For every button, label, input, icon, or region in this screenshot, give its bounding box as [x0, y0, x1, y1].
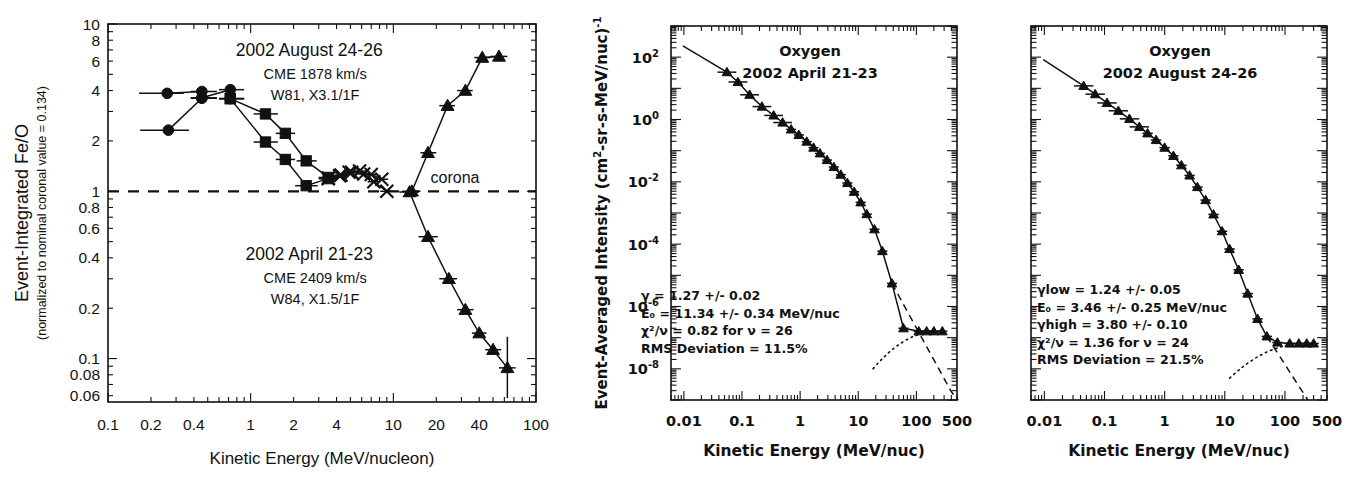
data-point-triangle — [422, 230, 435, 241]
y-tick-labels: 10864210.80.60.40.20.10.080.06 — [70, 16, 101, 405]
y-axis-subtitle: (normalized to nominal coronal value = 0… — [35, 86, 49, 340]
x-tick-label: 500 — [1312, 413, 1342, 429]
data-point-triangle — [442, 272, 455, 283]
panel-title-species: Oxygen — [1149, 43, 1211, 59]
x-tick-label: 1 — [246, 416, 255, 433]
panel-fe-o-ratio: 0.10.20.412410204010010864210.80.60.40.2… — [0, 0, 570, 484]
series-line — [230, 99, 328, 186]
panel-oxygen-april: 0.010.111010050010210010-210-410-610-8Ox… — [585, 0, 995, 484]
y-tick-label: 0.2 — [78, 300, 100, 317]
fit-parameter-line: E₀ = 11.34 +/- 0.34 MeV/nuc — [641, 306, 840, 321]
x-tick-label: 500 — [942, 413, 972, 429]
x-tick-label: 100 — [901, 413, 931, 429]
x-tick-label: 1 — [795, 413, 805, 429]
y-axis-title: Event-Integrated Fe/O — [12, 124, 32, 302]
fit-parameters: γlow = 1.24 +/- 0.05E₀ = 3.46 +/- 0.25 M… — [1037, 282, 1227, 367]
x-tick-labels: 0.010.1110100500 — [1026, 413, 1342, 429]
data-point-circle — [197, 93, 208, 104]
spectrum-line-head — [1043, 60, 1083, 86]
fit-parameter-line: χ²/ν = 0.82 for ν = 26 — [641, 323, 793, 338]
data-point-triangle — [493, 50, 506, 61]
oxygen-spectrum-april-chart: 0.010.111010050010210010-210-410-610-8Ox… — [585, 0, 995, 484]
y-tick-label: 100 — [632, 110, 659, 128]
x-tick-label: 40 — [471, 416, 489, 433]
x-tick-label: 0.01 — [666, 413, 702, 429]
x-tick-label: 1 — [1160, 413, 1170, 429]
annotation-line: W81, X3.1/1F — [271, 87, 360, 103]
panel-title-species: Oxygen — [779, 43, 841, 59]
panel-title: Oxygen2002 April 21-23 — [742, 43, 878, 81]
y-tick-label: 10-4 — [628, 235, 659, 253]
data-point-square — [280, 154, 290, 164]
x-tick-label: 0.4 — [183, 416, 205, 433]
y-axis-title: Event-Averaged Intensity (cm2-sr-s-MeV/n… — [592, 17, 611, 410]
annotation-line: W84, X1.5/1F — [271, 291, 360, 307]
x-axis-title: Kinetic Energy (MeV/nucleon) — [210, 449, 435, 468]
x-tick-label: 10 — [385, 416, 403, 433]
series-line — [230, 99, 328, 178]
y-tick-label: 0.06 — [70, 387, 100, 404]
annotation-title: 2002 August 24-26 — [236, 40, 383, 60]
y-tick-label: 10-8 — [628, 359, 659, 377]
panel-title: Oxygen2002 August 24-26 — [1103, 43, 1258, 81]
x-tick-label: 4 — [332, 416, 341, 433]
y-tick-label: 6 — [91, 53, 100, 70]
data-point-circle — [162, 88, 173, 99]
data-point-triangle — [473, 327, 486, 338]
y-tick-label: 0.8 — [78, 199, 100, 216]
oxygen-spectrum-august-chart: 0.010.1110100500Oxygen2002 August 24-26γ… — [995, 0, 1371, 484]
series-august-circles-low — [140, 93, 217, 136]
fit-parameter-line: RMS Deviation = 11.5% — [641, 341, 808, 356]
background-dotted-line — [1230, 344, 1296, 378]
data-point-triangle — [459, 303, 472, 314]
figure-root: 0.10.20.412410204010010864210.80.60.40.2… — [0, 0, 1371, 484]
annotation-april-event-label: 2002 April 21-23CME 2409 km/sW84, X1.5/1… — [245, 244, 372, 307]
x-tick-label: 20 — [428, 416, 446, 433]
x-tick-label: 10 — [848, 413, 868, 429]
panel-title-date: 2002 August 24-26 — [1103, 65, 1258, 81]
y-tick-label: 0.08 — [70, 366, 100, 383]
fit-parameter-line: χ²/ν = 1.36 for ν = 24 — [1037, 335, 1189, 350]
x-tick-label: 100 — [523, 416, 549, 433]
fit-parameter-line: γhigh = 3.80 +/- 0.10 — [1037, 317, 1188, 332]
y-tick-label: 8 — [91, 32, 100, 49]
x-axis-title: Kinetic Energy (MeV/nuc) — [1068, 442, 1290, 460]
data-point-square — [301, 156, 311, 166]
x-tick-label: 10 — [1215, 413, 1235, 429]
y-tick-label: 0.1 — [78, 350, 100, 367]
dotted-line — [1230, 344, 1296, 378]
data-point-square — [260, 109, 270, 119]
y-tick-label: 2 — [91, 132, 100, 149]
fit-parameter-line: γlow = 1.24 +/- 0.05 — [1037, 282, 1181, 297]
x-axis-title: Kinetic Energy (MeV/nuc) — [703, 442, 925, 460]
fe-o-ratio-chart: 0.10.20.412410204010010864210.80.60.40.2… — [0, 0, 570, 484]
x-tick-label: 100 — [1270, 413, 1300, 429]
series-line — [410, 192, 508, 368]
data-point-triangle — [459, 84, 472, 95]
y-tick-label: 10-2 — [628, 172, 659, 190]
series-april-triangles-falling — [399, 186, 515, 399]
x-tick-label: 0.1 — [1092, 413, 1118, 429]
data-point-square — [260, 137, 270, 147]
panel-oxygen-august: 0.010.1110100500Oxygen2002 August 24-26γ… — [995, 0, 1371, 484]
x-tick-label: 0.1 — [729, 413, 755, 429]
data-point-circle — [163, 125, 174, 136]
series-line — [168, 98, 201, 130]
data-point-square — [280, 128, 290, 138]
x-tick-labels: 0.010.1110100500 — [666, 413, 972, 429]
annotation-august-event-label: 2002 August 24-26CME 1878 km/sW81, X3.1/… — [236, 40, 383, 103]
annotation-title: 2002 April 21-23 — [245, 244, 372, 264]
annotation-line: CME 2409 km/s — [264, 270, 367, 286]
y-tick-label: 102 — [632, 48, 659, 66]
y-tick-label: 0.4 — [78, 249, 100, 266]
y-tick-label: 4 — [91, 82, 100, 99]
series-august-squares-lower — [219, 93, 338, 190]
fit-parameter-line: γ = 1.27 +/- 0.02 — [641, 288, 760, 303]
x-tick-label: 0.2 — [140, 416, 162, 433]
y-tick-label: 0.6 — [78, 220, 100, 237]
annotation-line: CME 1878 km/s — [264, 66, 367, 82]
fit-parameter-line: RMS Deviation = 21.5% — [1037, 352, 1204, 367]
data-point-square — [225, 93, 235, 103]
x-tick-label: 0.01 — [1026, 413, 1062, 429]
panel-title-date: 2002 April 21-23 — [742, 65, 878, 81]
